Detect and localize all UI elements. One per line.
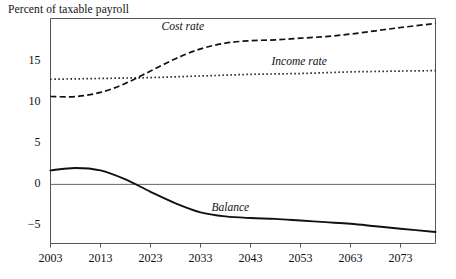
x-tick-label: 2043	[229, 251, 273, 266]
x-tick-label: 2073	[379, 251, 423, 266]
x-tick-label: 2063	[329, 251, 373, 266]
y-tick-label: 5	[15, 135, 41, 150]
axis-ticks	[51, 244, 401, 248]
y-tick-label: 0	[15, 176, 41, 191]
chart-figure: Percent of taxable payroll 151050−5 2003…	[0, 0, 456, 279]
x-tick-label: 2023	[129, 251, 173, 266]
x-tick-label: 2033	[179, 251, 223, 266]
series-line-cost-rate	[51, 23, 436, 96]
plot-area	[0, 0, 456, 279]
y-tick-label: −5	[15, 217, 41, 232]
x-tick-label: 2003	[29, 251, 73, 266]
series-line-balance	[51, 168, 436, 232]
series-label-cost-rate: Cost rate	[160, 20, 207, 32]
x-tick-label: 2013	[79, 251, 123, 266]
series-label-balance: Balance	[210, 201, 252, 213]
y-tick-label: 10	[15, 94, 41, 109]
y-tick-label: 15	[15, 53, 41, 68]
series-line-income-rate	[51, 71, 436, 80]
x-tick-label: 2053	[279, 251, 323, 266]
series-label-income-rate: Income rate	[270, 55, 329, 67]
